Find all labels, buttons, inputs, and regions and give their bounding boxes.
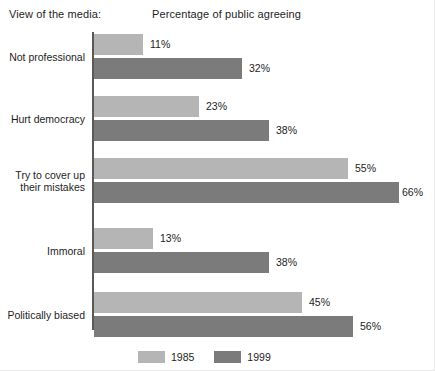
bar-group: Try to cover up their mistakes 55% 66% [0, 158, 435, 214]
bar-group: Politically biased 45% 56% [0, 292, 435, 348]
legend-item-1985: 1985 [138, 351, 194, 363]
bar-value-1999: 38% [276, 124, 297, 136]
bar-1985 [94, 34, 143, 55]
bar-value-1985: 55% [355, 162, 376, 174]
bar-group: Hurt democracy 23% 38% [0, 96, 435, 152]
category-label: Try to cover up their mistakes [0, 169, 85, 193]
bar-1985 [94, 292, 302, 313]
bar-value-1999: 38% [276, 256, 297, 268]
bar-1999 [94, 316, 353, 337]
bar-chart: View of the media: Percentage of public … [0, 0, 435, 371]
y-axis-caption: View of the media: [9, 8, 101, 20]
bar-value-1985: 45% [309, 296, 330, 308]
category-label: Not professional [0, 51, 85, 63]
category-label: Politically biased [0, 309, 85, 321]
bar-1999 [94, 58, 242, 79]
bar-value-1985: 13% [160, 232, 181, 244]
bar-value-1985: 11% [150, 38, 170, 50]
plot-area: Not professional 11% 32% Hurt democracy … [0, 30, 435, 330]
chart-title: Percentage of public agreeing [152, 8, 301, 20]
bar-value-1985: 23% [206, 100, 227, 112]
category-label: Hurt democracy [0, 113, 85, 125]
bar-1985 [94, 158, 348, 179]
bar-group: Not professional 11% 32% [0, 34, 435, 90]
legend-swatch-1999 [214, 351, 241, 363]
chart-legend: 1985 1999 [138, 351, 283, 363]
bar-1999 [94, 252, 269, 273]
bar-1999 [94, 182, 399, 203]
bar-1999 [94, 120, 269, 141]
legend-item-1999: 1999 [214, 351, 270, 363]
bar-group: Immoral 13% 38% [0, 228, 435, 284]
bar-value-1999: 56% [360, 320, 381, 332]
bar-value-1999: 32% [249, 62, 270, 74]
legend-swatch-1985 [138, 351, 165, 363]
legend-label-1999: 1999 [247, 351, 270, 363]
bar-1985 [94, 228, 153, 249]
legend-label-1985: 1985 [171, 351, 194, 363]
category-label: Immoral [0, 245, 85, 257]
bar-1985 [94, 96, 199, 117]
bar-value-1999: 66% [402, 186, 423, 198]
